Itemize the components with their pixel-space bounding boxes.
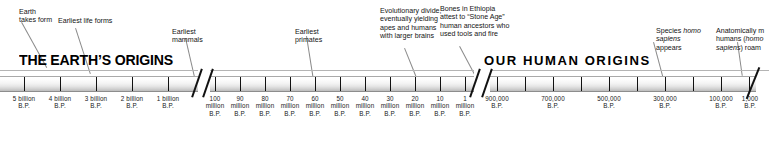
tick-100-million xyxy=(215,77,216,91)
tick-1-billion xyxy=(168,77,169,91)
callout-bones-in-ethiopia: Bones in Ethiopia attest to “Stone Age” … xyxy=(440,5,532,39)
axis-label-700000: 700,000 B.P. xyxy=(532,95,574,110)
tick-80-million xyxy=(265,77,266,91)
tick-40-million xyxy=(365,77,366,91)
headline-our-human-origins: OUR HUMAN ORIGINS xyxy=(484,53,651,68)
tick-20-million xyxy=(415,77,416,91)
tick-100000 xyxy=(721,77,722,91)
callout-earliest-mammals: Earliest mammals xyxy=(172,28,224,45)
tick-4-billion xyxy=(60,77,61,91)
tick-10-million xyxy=(440,77,441,91)
axis-label-1000: 1,000 B.P. xyxy=(733,95,767,110)
tick-70-million xyxy=(290,77,291,91)
tick-900000 xyxy=(497,77,498,91)
timeline-bar-millions xyxy=(210,76,474,92)
bar-highlight-line xyxy=(0,70,769,71)
callout-homo-sapiens-appears: Species homosapiensappears xyxy=(656,27,716,52)
tick-700000 xyxy=(553,77,554,91)
axis-label-1-billion: 1 billion B.P. xyxy=(146,95,190,110)
tick-50-million xyxy=(340,77,341,91)
callout-anatomically-modern: Anatomically mhumans (homosapiens) roam xyxy=(716,27,769,52)
callout-earliest-life-forms: Earliest life forms xyxy=(58,17,150,25)
tick-1-million xyxy=(465,77,466,91)
axis-label-300000: 300,000 B.P. xyxy=(644,95,686,110)
tick-5-billion xyxy=(24,77,25,91)
tick-3-billion xyxy=(96,77,97,91)
callout-earliest-primates: Earliest primates xyxy=(295,28,347,45)
headline-earths-origins: THE EARTH’S ORIGINS xyxy=(19,51,173,68)
tick-600000 xyxy=(581,77,582,91)
timeline-figure: Earth takes form Earliest life forms Ear… xyxy=(0,0,769,144)
tick-90-million xyxy=(240,77,241,91)
tick-2-billion xyxy=(132,77,133,91)
tick-30-million xyxy=(390,77,391,91)
axis-label-900000: 900,000 B.P. xyxy=(476,95,518,110)
timeline-bar-thousands xyxy=(490,76,756,92)
tick-60-million xyxy=(315,77,316,91)
tick-300000 xyxy=(665,77,666,91)
axis-label-500000: 500,000 B.P. xyxy=(588,95,630,110)
tick-200000 xyxy=(693,77,694,91)
tick-1000 xyxy=(749,77,750,91)
tick-800000 xyxy=(525,77,526,91)
tick-500000 xyxy=(609,77,610,91)
leader-line-evolutionary-divide xyxy=(404,48,416,76)
tick-400000 xyxy=(637,77,638,91)
